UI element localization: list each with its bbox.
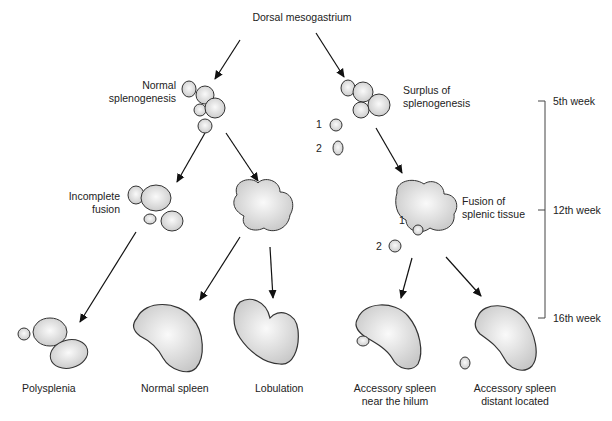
accessory-nodule-1 [413, 225, 423, 235]
polysplenia-shape [18, 318, 91, 372]
fusion-splenic-tissue-label: Fusion of splenic tissue [462, 195, 552, 221]
lobulation-shape [234, 299, 298, 364]
accessory-distant-label: Accessory spleen distant located [460, 382, 570, 408]
arrow-to-accessory-distant [446, 257, 481, 296]
accessory-hilum-label: Accessory spleen near the hilum [340, 382, 450, 408]
normal-spleen-shape [134, 305, 203, 372]
surplus-number-2: 2 [316, 142, 322, 155]
arrows [80, 33, 481, 322]
lobulation-label: Lobulation [255, 382, 303, 395]
accessory-nodule-2 [389, 240, 401, 252]
normal-splenogenesis-label: Normal splenogenesis [90, 79, 176, 105]
surplus-number-1: 1 [316, 118, 322, 131]
arrow-to-polysplenia [80, 232, 136, 322]
incomplete-fusion-cluster [128, 185, 183, 231]
arrow-to-incomplete [177, 133, 205, 182]
normal-spleen-label: Normal spleen [141, 382, 209, 395]
accessory-distant-nodule [460, 357, 470, 369]
arrow-to-normal [215, 40, 240, 79]
fusion-number-2: 2 [376, 240, 382, 253]
surplus-cluster [330, 80, 390, 155]
lobulated-tissue [234, 180, 293, 231]
dorsal-mesogastrium-label: Dorsal mesogastrium [232, 11, 372, 24]
week-5-label: 5th week [553, 95, 595, 108]
accessory-hilum-nodule [357, 336, 369, 346]
accessory-distant-spleen-shape [475, 306, 536, 370]
arrow-to-lobulated [226, 133, 258, 181]
arrow-to-accessory-hilum [401, 258, 412, 298]
arrow-to-lobulation [270, 247, 273, 298]
arrow-to-fusion [376, 128, 402, 173]
surplus-splenogenesis-label: Surplus of splenogenesis [403, 84, 503, 110]
week-12-label: 12th week [553, 204, 601, 217]
fusion-number-1: 1 [399, 214, 405, 227]
week-16-label: 16th week [553, 312, 601, 325]
arrow-to-surplus [316, 33, 344, 77]
polysplenia-label: Polysplenia [22, 382, 76, 395]
normal-splenogenesis-cluster [182, 81, 225, 133]
incomplete-fusion-label: Incomplete fusion [30, 190, 120, 216]
arrow-to-normal-spleen [200, 237, 240, 300]
